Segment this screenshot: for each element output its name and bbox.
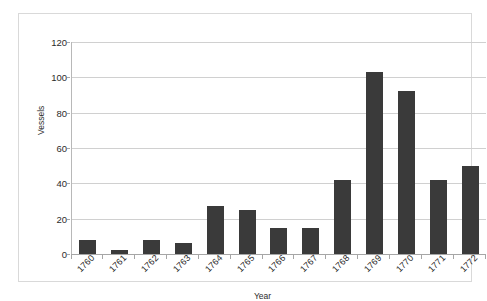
x-label-slot: 1770 <box>390 260 422 294</box>
bar-slot-1768 <box>327 42 359 254</box>
bar-1764[interactable] <box>207 206 224 254</box>
bar-slot-1761 <box>104 42 136 254</box>
y-axis-tick-labels: 020406080100120 <box>19 42 67 254</box>
x-label-slot: 1772 <box>454 260 486 294</box>
x-label-slot: 1766 <box>263 260 295 294</box>
bar-1762[interactable] <box>143 240 160 254</box>
y-tick-label: 80 <box>21 107 67 118</box>
x-label-slot: 1768 <box>326 260 358 294</box>
x-label-slot: 1761 <box>103 260 135 294</box>
x-axis-tick-labels: 1760176117621763176417651766176717681769… <box>71 260 486 294</box>
y-tick-label: 100 <box>21 72 67 83</box>
y-tick-mark <box>67 113 70 114</box>
bar-slot-1765 <box>231 42 263 254</box>
bar-slot-1772 <box>454 42 486 254</box>
bar-slot-1763 <box>168 42 200 254</box>
x-label-slot: 1760 <box>71 260 103 294</box>
x-tick-mark <box>485 255 486 259</box>
x-label-slot: 1771 <box>422 260 454 294</box>
y-tick-label: 0 <box>21 249 67 260</box>
x-label-slot: 1763 <box>167 260 199 294</box>
y-tick-label: 60 <box>21 143 67 154</box>
bar-1772[interactable] <box>462 166 479 254</box>
bar-1766[interactable] <box>270 228 287 255</box>
x-label-slot: 1765 <box>231 260 263 294</box>
bar-1765[interactable] <box>239 210 256 254</box>
y-tick-label: 120 <box>21 37 67 48</box>
bar-slot-1770 <box>390 42 422 254</box>
bar-slot-1771 <box>422 42 454 254</box>
y-tick-mark <box>67 219 70 220</box>
bar-1763[interactable] <box>175 243 192 254</box>
x-label-slot: 1764 <box>199 260 231 294</box>
bar-1769[interactable] <box>366 72 383 254</box>
y-tick-mark <box>67 254 70 255</box>
y-tick-mark <box>67 42 70 43</box>
bar-1760[interactable] <box>79 240 96 254</box>
bar-slot-1769 <box>359 42 391 254</box>
chart-frame: Vessels 020406080100120 1760176117621763… <box>18 13 472 282</box>
x-label-slot: 1762 <box>135 260 167 294</box>
x-tick-mark <box>71 255 72 259</box>
bar-series <box>72 42 486 254</box>
x-axis-title: Year <box>19 291 487 301</box>
bar-1770[interactable] <box>398 91 415 254</box>
bar-slot-1766 <box>263 42 295 254</box>
bar-slot-1767 <box>295 42 327 254</box>
plot-area <box>71 42 486 254</box>
bar-slot-1760 <box>72 42 104 254</box>
bar-1771[interactable] <box>430 180 447 254</box>
x-label-slot: 1767 <box>294 260 326 294</box>
bar-slot-1764 <box>199 42 231 254</box>
bar-1767[interactable] <box>302 228 319 255</box>
bar-1768[interactable] <box>334 180 351 254</box>
bar-slot-1762 <box>136 42 168 254</box>
y-tick-label: 40 <box>21 178 67 189</box>
y-tick-mark <box>67 148 70 149</box>
x-label-slot: 1769 <box>358 260 390 294</box>
y-tick-mark <box>67 77 70 78</box>
y-tick-label: 20 <box>21 213 67 224</box>
y-tick-mark <box>67 183 70 184</box>
